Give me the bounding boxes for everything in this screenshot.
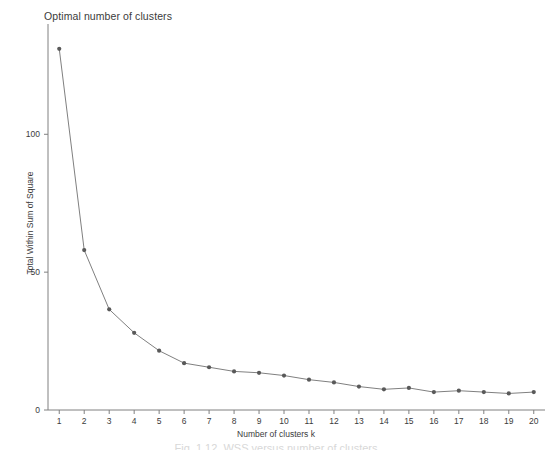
data-point-marker [82,248,86,252]
data-point-marker [157,349,161,353]
series-line [59,49,534,394]
data-point-marker [382,387,386,391]
data-point-marker [457,389,461,393]
x-tick-label: 11 [305,416,314,426]
data-point-marker [132,331,136,335]
chart-container: Optimal number of clusters Total Within … [0,0,552,450]
x-tick-label: 6 [182,416,187,426]
data-point-marker [532,390,536,394]
x-tick-label: 19 [504,416,514,426]
data-point-marker [282,373,286,377]
x-tick-label: 14 [379,416,389,426]
data-point-marker [232,369,236,373]
x-tick-label: 3 [107,416,112,426]
x-tick-label: 18 [479,416,489,426]
data-point-marker [432,390,436,394]
data-point-marker [407,386,411,390]
figure-caption: Fig. 1.12. WSS versus number of clusters [0,442,552,450]
data-point-marker [207,365,211,369]
x-tick-label: 20 [529,416,539,426]
x-tick-label: 8 [232,416,237,426]
data-point-marker [507,391,511,395]
x-tick-label: 5 [157,416,162,426]
data-markers-group [57,47,536,396]
data-point-marker [57,47,61,51]
x-ticks-group: 1234567891011121314151617181920 [57,410,539,426]
y-tick-label: 0 [35,405,40,415]
data-point-marker [107,307,111,311]
x-tick-label: 2 [82,416,87,426]
data-point-marker [257,371,261,375]
x-tick-label: 15 [404,416,414,426]
x-tick-label: 9 [257,416,262,426]
data-point-marker [357,384,361,388]
x-tick-label: 4 [132,416,137,426]
data-point-marker [332,380,336,384]
x-tick-label: 12 [329,416,339,426]
y-tick-label: 50 [31,267,41,277]
y-tick-label: 100 [26,129,40,139]
data-series-group [59,49,534,394]
x-tick-label: 17 [454,416,464,426]
y-ticks-group: 050100 [26,129,48,415]
x-tick-label: 10 [279,416,289,426]
x-tick-label: 7 [207,416,212,426]
data-point-marker [307,378,311,382]
axes-group [48,24,545,410]
x-tick-label: 13 [354,416,364,426]
plot-area: 050100 1234567891011121314151617181920 [0,0,552,450]
data-point-marker [482,390,486,394]
data-point-marker [182,361,186,365]
x-tick-label: 16 [429,416,439,426]
x-tick-label: 1 [57,416,62,426]
